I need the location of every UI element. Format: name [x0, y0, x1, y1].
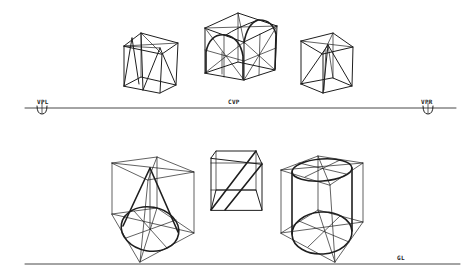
cube-with-two-arches [205, 13, 277, 80]
vpl-label: VPL [37, 98, 49, 105]
cube-with-cylinder [281, 156, 363, 262]
vpr-label: VPR [421, 98, 433, 105]
cube-with-diagonal-plane [211, 151, 262, 210]
cvp-label: CVP [228, 98, 240, 105]
cube-with-inverted-pyramid [124, 33, 178, 93]
cube-with-pyramid [301, 33, 353, 93]
diagram-canvas [0, 0, 470, 268]
cube-with-cone [112, 157, 194, 262]
gl-label: GL [397, 254, 405, 261]
perspective-diagram: VPL CVP VPR GL [0, 0, 470, 268]
horizon-line [25, 103, 456, 114]
